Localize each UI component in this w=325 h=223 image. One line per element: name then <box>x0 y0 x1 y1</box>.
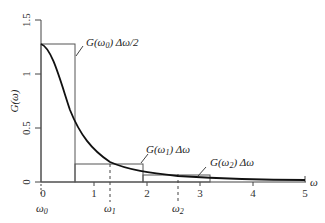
x-tick-labels: 0 1 2 3 4 5 <box>40 187 308 199</box>
y-tick-1.5: 1.5 <box>20 13 32 27</box>
rect-w1 <box>75 164 143 182</box>
w0-label: ω0 <box>36 202 48 216</box>
y-axis-label: G(ω) <box>8 89 21 112</box>
y-tick-1: 1 <box>20 71 32 77</box>
y-tick-0.5: 0.5 <box>20 121 32 135</box>
x-tick-4: 4 <box>250 187 256 199</box>
ann1-leader <box>141 154 148 163</box>
chart: 1.5 1 0.5 0 G(ω) 0 1 2 3 4 5 ω G(ω0) Δω/… <box>0 0 325 223</box>
y-tick-labels: 1.5 1 0.5 0 <box>20 13 32 185</box>
w2-label: ω2 <box>172 202 184 216</box>
x-tick-1: 1 <box>91 187 97 199</box>
y-tick-0: 0 <box>20 179 32 185</box>
w1-label: ω1 <box>104 202 116 216</box>
ann2-label: G(ω2) Δω <box>210 156 254 170</box>
ann1-label: G(ω1) Δω <box>146 143 190 157</box>
y-ticks <box>35 20 41 182</box>
ann0-leader <box>76 46 83 56</box>
x-tick-2: 2 <box>144 187 150 199</box>
ann0-label: G(ω0) Δω/2 <box>86 36 139 50</box>
x-tick-5: 5 <box>302 187 308 199</box>
x-tick-3: 3 <box>197 187 203 199</box>
g-omega-curve <box>41 44 305 180</box>
rect-w0 <box>41 44 75 182</box>
x-axis-label: ω <box>310 176 318 188</box>
